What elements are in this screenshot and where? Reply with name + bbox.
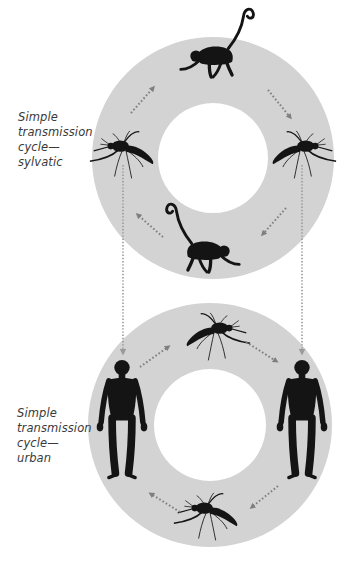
urban-cycle xyxy=(88,303,332,547)
sylvatic-cycle xyxy=(90,9,336,279)
label-line: cycle— xyxy=(17,436,92,451)
label-line: cycle— xyxy=(18,140,93,155)
sylvatic-cycle-label: Simple transmission cycle— sylvatic xyxy=(18,110,93,170)
transmission-cycle-diagram xyxy=(0,0,356,561)
label-line: transmission xyxy=(17,421,92,436)
sylvatic-ring xyxy=(92,37,334,279)
label-line: urban xyxy=(17,451,92,466)
label-line: sylvatic xyxy=(18,155,93,170)
label-line: Simple xyxy=(18,110,93,125)
label-line: Simple xyxy=(17,406,92,421)
label-line: transmission xyxy=(18,125,93,140)
urban-cycle-label: Simple transmission cycle— urban xyxy=(17,406,92,466)
